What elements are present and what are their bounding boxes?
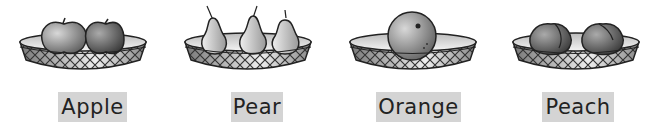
fruit-label-pear: Pear <box>231 92 283 122</box>
peach-card: Peach <box>493 0 658 129</box>
orange-basket-icon <box>330 0 495 92</box>
pear-basket-icon <box>165 0 330 92</box>
pear-card: Pear <box>165 0 330 129</box>
fruit-label-orange: Orange <box>376 92 461 122</box>
fruit-label-peach: Peach <box>542 92 614 122</box>
peach-basket-icon <box>493 0 658 92</box>
fruit-label-apple: Apple <box>58 92 127 122</box>
orange-card: Orange <box>330 0 495 129</box>
apple-basket-icon <box>0 0 165 92</box>
apple-card: Apple <box>0 0 165 129</box>
